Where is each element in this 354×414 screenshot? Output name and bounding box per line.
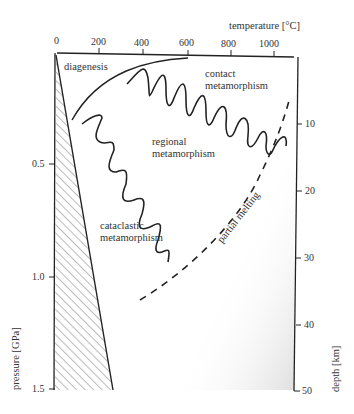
top-tick-800: 800 (221, 38, 236, 49)
label-contact-2: metamorphism (205, 80, 268, 91)
top-axis-label: temperature [°C] (229, 20, 300, 31)
right-tick-40: 40 (304, 319, 314, 330)
left-tick-0.5: 0.5 (32, 158, 45, 169)
top-tick-1000: 1000 (259, 38, 279, 49)
left-axis-label: pressure [GPa] (10, 327, 21, 390)
top-axis-line (57, 53, 294, 57)
right-tick-30: 30 (304, 252, 314, 263)
top-tick-400: 400 (134, 37, 149, 48)
left-tick-1.5: 1.5 (32, 383, 45, 394)
right-tick-10: 10 (305, 118, 315, 129)
label-cataclastic-2: metamorphism (100, 232, 163, 243)
left-tick-1.0: 1.0 (32, 271, 45, 282)
left-axis-line (54, 53, 55, 390)
label-regional-1: regional (152, 136, 186, 147)
right-axis-label: depth [km] (330, 346, 341, 392)
top-tick-0: 0 (54, 35, 59, 46)
partial-melting-shade (180, 150, 294, 390)
top-tick-600: 600 (179, 37, 194, 48)
diagram-canvas (0, 0, 354, 414)
label-regional-2: metamorphism (152, 148, 215, 159)
right-tick-50: 50 (302, 385, 312, 396)
right-axis-line (294, 57, 298, 391)
top-tick-200: 200 (91, 36, 106, 47)
label-cataclastic-1: cataclastic (100, 220, 144, 231)
label-contact-1: contact (205, 68, 235, 79)
right-tick-20: 20 (305, 185, 315, 196)
label-diagenesis: diagenesis (64, 61, 108, 72)
